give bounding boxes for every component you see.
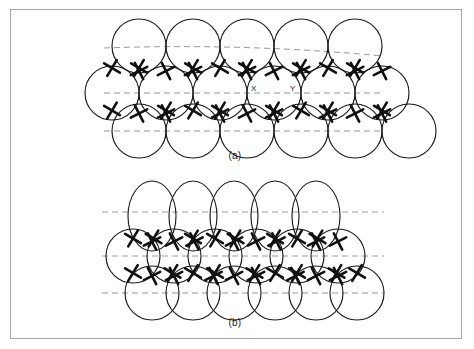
panel-a-caption: (a) — [205, 150, 265, 161]
circle-1 — [166, 19, 220, 73]
circle-4 — [328, 19, 382, 73]
panel-b-group — [102, 181, 384, 320]
panel-a-group — [85, 19, 436, 158]
panel-b-caption: (b) — [205, 317, 265, 328]
site-label-x: X — [251, 84, 256, 93]
panel-a-top-row — [112, 19, 382, 73]
circle-0 — [112, 19, 166, 73]
figure-root: (a) (b) XY — [0, 0, 474, 349]
circle-3 — [274, 19, 328, 73]
circle-2 — [220, 19, 274, 73]
site-label-y: Y — [290, 84, 295, 93]
packing-diagram-svg — [0, 0, 474, 349]
